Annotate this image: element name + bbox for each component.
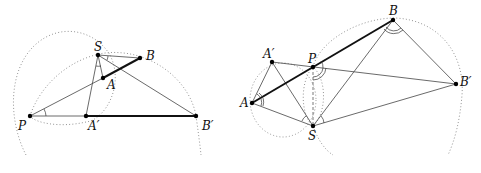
segment-A-prime-B-prime xyxy=(272,62,456,84)
segment-S-B xyxy=(98,55,140,58)
label-P: P xyxy=(307,52,317,66)
label-S: S xyxy=(308,129,316,143)
circle-small-A-A-prime-P-S xyxy=(250,63,316,137)
left-figure: S B A P A′ B′ xyxy=(13,31,213,155)
circle-PSB-prime xyxy=(30,52,201,155)
label-B-prime: B′ xyxy=(459,75,472,89)
right-figure: B A′ P B′ A S xyxy=(239,4,472,155)
label-A-prime: A′ xyxy=(262,47,275,61)
label-B-prime: B′ xyxy=(201,119,214,133)
segment-S-B-prime xyxy=(313,84,456,126)
label-A: A xyxy=(106,78,116,92)
segment-A-B xyxy=(103,58,140,78)
label-S: S xyxy=(94,40,102,54)
label-A: A xyxy=(239,96,249,110)
point-P xyxy=(28,114,32,118)
angle-mark-S-B xyxy=(107,56,108,60)
label-B: B xyxy=(145,49,155,63)
angle-mark-B-2 xyxy=(384,29,403,34)
angle-mark-P-2 xyxy=(313,68,326,80)
angle-mark-S-right xyxy=(321,116,324,123)
point-A xyxy=(250,101,254,105)
geometry-diagram: S B A P A′ B′ xyxy=(0,0,481,173)
label-B: B xyxy=(388,4,398,18)
label-A-prime: A′ xyxy=(87,119,100,133)
point-A xyxy=(101,76,105,80)
angle-mark-S-left xyxy=(302,116,306,121)
label-P: P xyxy=(17,119,27,133)
point-A-prime xyxy=(84,114,88,118)
point-B xyxy=(138,56,142,60)
angle-mark-B-1 xyxy=(386,27,401,31)
point-B-prime xyxy=(454,82,458,86)
point-B xyxy=(391,18,395,22)
segment-B-B-prime xyxy=(393,20,456,84)
circle-large-P-B-B-prime-S xyxy=(313,18,462,155)
point-B-prime xyxy=(194,114,198,118)
point-S xyxy=(311,124,315,128)
angle-mark-P xyxy=(44,109,46,116)
angle-mark-P-1 xyxy=(313,68,323,77)
